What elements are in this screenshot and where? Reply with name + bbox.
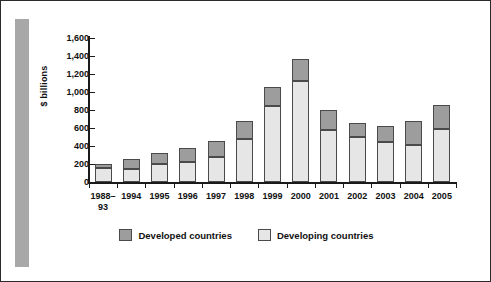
y-axis-tick-label: 400	[43, 141, 89, 151]
bar-group[interactable]	[264, 38, 281, 182]
y-axis-tick-label: 1,000	[43, 87, 89, 97]
plot-area	[89, 38, 456, 182]
x-axis-tick-mark	[145, 182, 146, 188]
y-axis-tick-label: 0	[43, 177, 89, 187]
x-axis-tick-mark	[117, 182, 118, 188]
bar-group[interactable]	[151, 38, 168, 182]
bar-segment-developing[interactable]	[208, 157, 225, 182]
bar-segment-developed[interactable]	[264, 87, 281, 107]
x-axis-tick-mark	[343, 182, 344, 188]
x-axis-tick-mark	[456, 182, 457, 188]
x-axis-tick-mark	[258, 182, 259, 188]
bar-group[interactable]	[236, 38, 253, 182]
bar-segment-developed[interactable]	[208, 141, 225, 157]
legend-swatch	[119, 229, 132, 241]
bar-group[interactable]	[179, 38, 196, 182]
y-axis-tick-label: 800	[43, 105, 89, 115]
bar-segment-developed[interactable]	[236, 121, 253, 139]
x-axis-tick-mark	[89, 182, 90, 188]
chart-legend: Developed countriesDeveloping countries	[1, 229, 491, 241]
x-axis-tick-mark	[315, 182, 316, 188]
legend-item[interactable]: Developed countries	[119, 229, 231, 241]
bar-group[interactable]	[320, 38, 337, 182]
bar-group[interactable]	[123, 38, 140, 182]
bar-segment-developed[interactable]	[433, 105, 450, 129]
bar-segment-developing[interactable]	[405, 145, 422, 182]
y-axis-tick-label: 1,200	[43, 69, 89, 79]
x-axis-tick-mark	[202, 182, 203, 188]
bar-segment-developing[interactable]	[433, 129, 450, 182]
bar-segment-developed[interactable]	[179, 148, 196, 162]
bar-group[interactable]	[292, 38, 309, 182]
bar-segment-developing[interactable]	[151, 164, 168, 182]
x-axis-tick-mark	[371, 182, 372, 188]
y-axis-tick-label: 1,600	[43, 33, 89, 43]
bar-segment-developed[interactable]	[151, 153, 168, 164]
y-axis-tick-label: 600	[43, 123, 89, 133]
legend-label: Developed countries	[138, 230, 231, 241]
bar-group[interactable]	[95, 38, 112, 182]
x-axis-tick-mark	[428, 182, 429, 188]
bar-segment-developing[interactable]	[349, 137, 366, 182]
x-axis-tick-mark	[174, 182, 175, 188]
chart-figure: $ billions 02004006008001,0001,2001,4001…	[0, 0, 491, 282]
bar-group[interactable]	[377, 38, 394, 182]
bar-segment-developed[interactable]	[349, 123, 366, 137]
x-axis-tick-mark	[287, 182, 288, 188]
bar-group[interactable]	[208, 38, 225, 182]
x-axis-line	[88, 182, 457, 184]
bar-segment-developing[interactable]	[95, 168, 112, 182]
x-axis-tick-label: 2005	[422, 191, 462, 202]
bar-segment-developed[interactable]	[377, 126, 394, 143]
bar-segment-developed[interactable]	[123, 159, 140, 168]
legend-swatch	[258, 229, 271, 241]
bar-segment-developing[interactable]	[377, 142, 394, 182]
legend-label: Developing countries	[277, 230, 374, 241]
x-axis-tick-mark	[230, 182, 231, 188]
x-axis-tick-mark	[400, 182, 401, 188]
bar-segment-developed[interactable]	[292, 59, 309, 82]
bar-group[interactable]	[349, 38, 366, 182]
bar-segment-developed[interactable]	[320, 110, 337, 130]
bar-group[interactable]	[433, 38, 450, 182]
bar-segment-developing[interactable]	[123, 169, 140, 183]
bar-segment-developed[interactable]	[95, 164, 112, 168]
bar-segment-developing[interactable]	[236, 139, 253, 182]
bar-segment-developing[interactable]	[264, 106, 281, 182]
bar-segment-developing[interactable]	[320, 130, 337, 182]
bar-segment-developing[interactable]	[292, 81, 309, 182]
y-axis-tick-label: 1,400	[43, 51, 89, 61]
bar-segment-developing[interactable]	[179, 162, 196, 182]
bar-segment-developed[interactable]	[405, 121, 422, 145]
legend-item[interactable]: Developing countries	[258, 229, 374, 241]
bar-group[interactable]	[405, 38, 422, 182]
y-axis-tick-label: 200	[43, 159, 89, 169]
